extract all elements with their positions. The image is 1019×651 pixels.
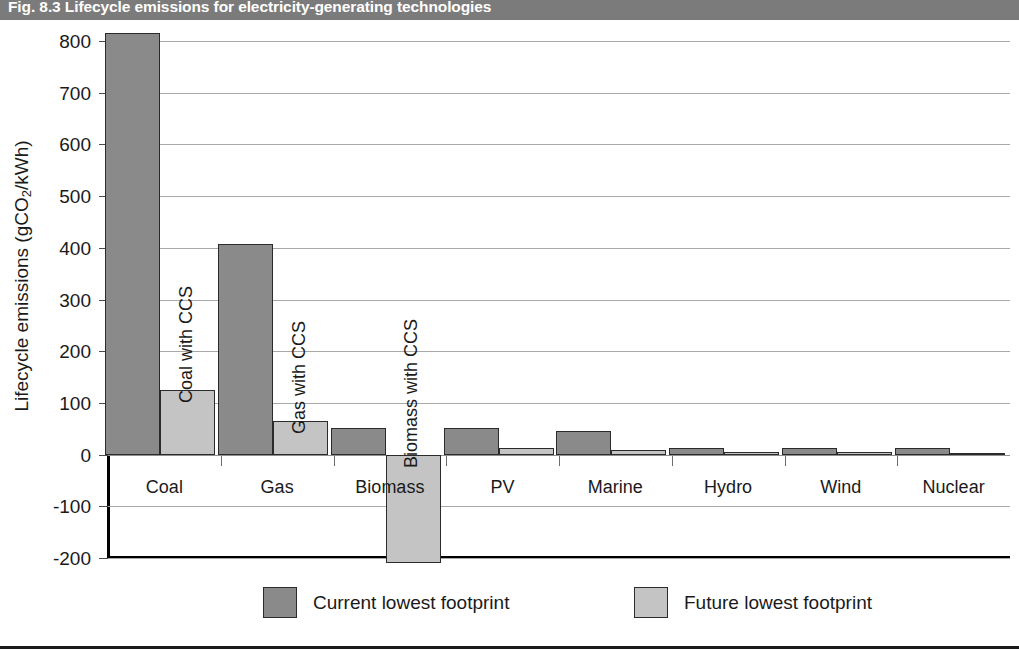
bar-nuclear-current bbox=[895, 448, 950, 455]
x-axis-tick bbox=[672, 456, 673, 466]
y-axis-tick-label: 700 bbox=[31, 84, 91, 103]
x-axis-tick bbox=[446, 456, 447, 466]
y-axis-title-after: /kWh) bbox=[11, 140, 32, 190]
y-axis-tick bbox=[99, 455, 108, 456]
gridline bbox=[108, 558, 1010, 559]
annotation-gas-with-ccs: Gas with CCS bbox=[289, 321, 310, 434]
page-bottom-rule bbox=[0, 646, 1019, 649]
figure-title-banner: Fig. 8.3 Lifecycle emissions for electri… bbox=[0, 0, 1019, 20]
bar-pv-future bbox=[499, 448, 554, 454]
bar-wind-current bbox=[782, 448, 837, 455]
bar-marine-current bbox=[556, 431, 611, 455]
chart-figure: Lifecycle emissions (gCO2/kWh) 800700600… bbox=[0, 20, 1019, 651]
bar-hydro-current bbox=[669, 448, 724, 455]
y-axis-title: Lifecycle emissions (gCO2/kWh) bbox=[11, 66, 33, 486]
y-axis-tick-label: 500 bbox=[31, 187, 91, 206]
legend-swatch-future bbox=[634, 587, 668, 618]
bar-gas-current bbox=[218, 244, 273, 454]
category-label-pv: PV bbox=[491, 477, 515, 498]
x-axis-tick bbox=[559, 456, 560, 466]
legend-entry-current: Current lowest footprint bbox=[263, 587, 509, 618]
y-axis-tick-label: 0 bbox=[31, 446, 91, 465]
y-axis-tick-label: 400 bbox=[31, 239, 91, 258]
annotation-biomass-with-ccs: Biomass with CCS bbox=[401, 319, 422, 468]
x-axis-tick bbox=[897, 456, 898, 466]
legend-entry-future: Future lowest footprint bbox=[634, 587, 872, 618]
legend-swatch-current bbox=[263, 587, 297, 618]
chart-legend: Current lowest footprintFuture lowest fo… bbox=[0, 579, 1019, 639]
y-axis-tick-label: 600 bbox=[31, 135, 91, 154]
y-axis-tick bbox=[99, 558, 108, 559]
y-axis-tick-label: -200 bbox=[31, 549, 91, 568]
category-label-hydro: Hydro bbox=[704, 477, 752, 498]
annotation-coal-with-ccs: Coal with CCS bbox=[176, 286, 197, 403]
plot-area: Coal with CCSGas with CCSBiomass with CC… bbox=[108, 41, 1010, 558]
x-axis-tick bbox=[785, 456, 786, 466]
category-label-coal: Coal bbox=[146, 477, 183, 498]
bar-marine-future bbox=[611, 450, 666, 454]
legend-label-current: Current lowest footprint bbox=[313, 592, 509, 614]
y-axis-tick-label: 300 bbox=[31, 291, 91, 310]
legend-label-future: Future lowest footprint bbox=[684, 592, 872, 614]
category-label-biomass: Biomass bbox=[355, 477, 424, 498]
x-axis-tick bbox=[221, 456, 222, 466]
y-axis-tick-label: -100 bbox=[31, 497, 91, 516]
bar-hydro-future bbox=[724, 452, 779, 455]
y-axis-tick-label: 800 bbox=[31, 32, 91, 51]
category-label-wind: Wind bbox=[820, 477, 861, 498]
y-axis-tick-label: 200 bbox=[31, 342, 91, 361]
category-label-nuclear: Nuclear bbox=[923, 477, 985, 498]
bar-wind-future bbox=[837, 452, 892, 455]
bar-coal-current bbox=[105, 33, 160, 454]
y-axis-title-before: Lifecycle emissions (gCO bbox=[11, 197, 32, 411]
bar-biomass-current bbox=[331, 428, 386, 455]
category-label-gas: Gas bbox=[261, 477, 294, 498]
bar-biomass-future bbox=[386, 455, 441, 564]
y-axis-tick-label: 100 bbox=[31, 394, 91, 413]
x-axis-tick bbox=[334, 456, 335, 466]
bar-pv-current bbox=[444, 428, 499, 455]
bar-nuclear-future bbox=[950, 453, 1005, 455]
y-axis-tick bbox=[99, 506, 108, 507]
category-label-marine: Marine bbox=[588, 477, 643, 498]
